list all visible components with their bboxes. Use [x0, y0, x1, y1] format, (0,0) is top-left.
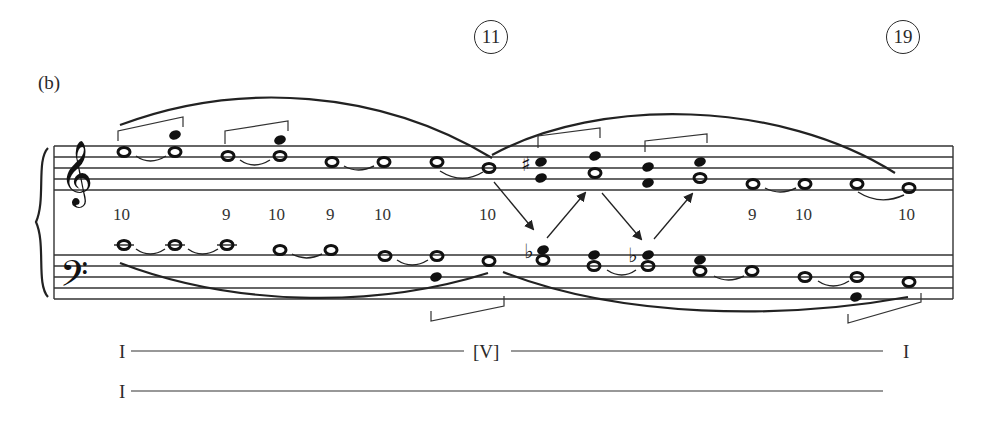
- sharp-icon: ♯: [521, 152, 531, 176]
- upper-brackets: [118, 117, 707, 152]
- bass-clef-icon: 𝄢: [60, 252, 88, 303]
- treble-staff: [54, 146, 953, 190]
- bass-staff: [54, 255, 953, 299]
- upper-slur-right: [492, 114, 895, 173]
- treble-notes: [118, 148, 915, 193]
- bass-filled-notes: [429, 244, 863, 304]
- treble-ties: [136, 156, 904, 200]
- bass-notes: [118, 241, 915, 287]
- treble-clef-icon: 𝄞: [60, 140, 93, 208]
- flat-icon: ♭: [628, 243, 637, 267]
- brace: [36, 148, 48, 297]
- lower-slur-right: [503, 272, 908, 311]
- prolongation-lines: [131, 351, 883, 391]
- flat-icon: ♭: [524, 239, 533, 263]
- music-score: 𝄞 𝄢: [0, 0, 996, 421]
